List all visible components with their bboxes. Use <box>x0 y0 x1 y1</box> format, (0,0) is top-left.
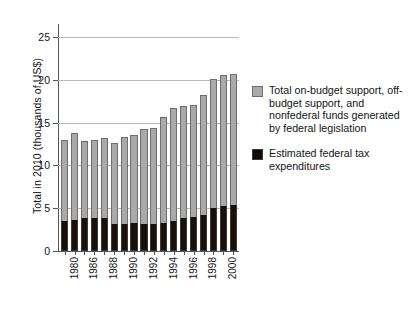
legend-label: Total on-budget support, off-budget supp… <box>269 84 412 134</box>
x-axis-tick-label: 1980 <box>70 257 80 279</box>
chart-legend: Total on-budget support, off-budget supp… <box>252 84 412 186</box>
x-axis-tick-label: 1986 <box>89 257 99 279</box>
bar-column[interactable]: 1980 <box>71 24 78 251</box>
legend-item[interactable]: Estimated federal tax expenditures <box>252 147 412 172</box>
x-axis-tick <box>223 251 224 255</box>
bar-segment-total-support[interactable] <box>150 128 157 224</box>
x-axis-tick <box>94 251 95 255</box>
bar-segment-total-support[interactable] <box>200 95 207 215</box>
x-axis-tick <box>134 251 135 255</box>
bar-segment-total-support[interactable] <box>180 106 187 218</box>
bar-segment-total-support[interactable] <box>61 140 68 221</box>
x-axis-tick <box>164 251 165 255</box>
bar-segment-tax-expenditures[interactable] <box>140 224 147 251</box>
bar-segment-total-support[interactable] <box>71 133 78 220</box>
bar-segment-total-support[interactable] <box>160 117 167 223</box>
bar-column[interactable] <box>81 24 88 251</box>
bar-column[interactable]: 2000 <box>230 24 237 251</box>
y-axis-tick-label: 15 <box>38 117 50 128</box>
bar-group: 198019861988199019921994199619982000 <box>59 24 239 251</box>
black-swatch-icon <box>252 149 263 160</box>
bar-column[interactable] <box>101 24 108 251</box>
x-axis-tick <box>124 251 125 255</box>
bar-segment-total-support[interactable] <box>111 143 118 224</box>
x-axis-tick <box>75 251 76 255</box>
y-axis-tick-label: 0 <box>44 246 50 257</box>
bar-column[interactable]: 1996 <box>190 24 197 251</box>
x-axis-tick-label: 1992 <box>149 257 159 279</box>
y-axis-tick-label: 25 <box>38 32 50 43</box>
figure-caption <box>0 305 415 319</box>
bar-column[interactable]: 1998 <box>210 24 217 251</box>
bar-segment-tax-expenditures[interactable] <box>210 208 217 251</box>
bar-column[interactable]: 1988 <box>111 24 118 251</box>
x-axis-tick <box>84 251 85 255</box>
x-axis-tick-label: 1990 <box>129 257 139 279</box>
y-axis-tick <box>53 123 58 124</box>
bar-segment-tax-expenditures[interactable] <box>160 223 167 251</box>
x-axis-tick-label: 1988 <box>109 257 119 279</box>
y-axis-title: Total in 2010 (thousands of US$) <box>31 21 43 251</box>
legend-item[interactable]: Total on-budget support, off-budget supp… <box>252 84 412 134</box>
plot-area: 0510152025 19801986198819901992199419961… <box>58 24 239 252</box>
bar-column[interactable] <box>220 24 227 251</box>
bar-segment-tax-expenditures[interactable] <box>71 220 78 251</box>
bar-column[interactable] <box>200 24 207 251</box>
x-axis-tick <box>184 251 185 255</box>
y-axis-tick-label: 20 <box>38 74 50 85</box>
x-axis-tick <box>154 251 155 255</box>
bar-column[interactable]: 1992 <box>150 24 157 251</box>
bar-column[interactable]: 1986 <box>91 24 98 251</box>
bar-segment-tax-expenditures[interactable] <box>130 223 137 251</box>
bar-segment-tax-expenditures[interactable] <box>61 221 68 251</box>
grey-swatch-icon <box>252 86 263 97</box>
bar-segment-total-support[interactable] <box>170 108 177 221</box>
y-axis-tick-label: 10 <box>38 160 50 171</box>
bar-segment-tax-expenditures[interactable] <box>180 218 187 251</box>
chart-figure: Total in 2010 (thousands of US$) 0510152… <box>0 0 415 319</box>
bar-segment-total-support[interactable] <box>101 138 108 218</box>
bar-column[interactable] <box>160 24 167 251</box>
x-axis-tick-label: 1998 <box>208 257 218 279</box>
y-axis-tick <box>53 165 58 166</box>
bar-column[interactable] <box>180 24 187 251</box>
bar-segment-tax-expenditures[interactable] <box>150 224 157 251</box>
x-axis-tick <box>104 251 105 255</box>
bar-column[interactable] <box>121 24 128 251</box>
bar-segment-tax-expenditures[interactable] <box>111 224 118 251</box>
bar-segment-total-support[interactable] <box>140 129 147 223</box>
bar-segment-tax-expenditures[interactable] <box>81 218 88 251</box>
y-axis-tick-label: 5 <box>44 203 50 214</box>
bar-segment-tax-expenditures[interactable] <box>200 215 207 251</box>
y-axis-tick <box>53 80 58 81</box>
bar-segment-tax-expenditures[interactable] <box>230 205 237 251</box>
legend-label: Estimated federal tax expenditures <box>269 147 412 172</box>
x-axis-tick <box>194 251 195 255</box>
bar-segment-tax-expenditures[interactable] <box>170 221 177 251</box>
bar-segment-total-support[interactable] <box>230 74 237 205</box>
bar-segment-tax-expenditures[interactable] <box>91 218 98 251</box>
x-axis-tick-label: 1996 <box>189 257 199 279</box>
bar-segment-total-support[interactable] <box>130 135 137 223</box>
x-axis-tick <box>114 251 115 255</box>
bar-segment-tax-expenditures[interactable] <box>121 224 128 251</box>
x-axis-tick <box>144 251 145 255</box>
y-axis-tick <box>53 251 58 252</box>
bar-segment-total-support[interactable] <box>190 105 197 217</box>
x-axis-tick-label: 1994 <box>169 257 179 279</box>
bar-segment-total-support[interactable] <box>91 140 98 218</box>
bar-segment-tax-expenditures[interactable] <box>101 218 108 251</box>
bar-segment-total-support[interactable] <box>210 79 217 208</box>
x-axis-tick <box>65 251 66 255</box>
bar-segment-tax-expenditures[interactable] <box>190 217 197 251</box>
bar-column[interactable] <box>61 24 68 251</box>
bar-column[interactable]: 1990 <box>130 24 137 251</box>
bar-segment-total-support[interactable] <box>81 141 88 219</box>
x-axis-tick <box>213 251 214 255</box>
bar-segment-total-support[interactable] <box>121 137 128 224</box>
bar-column[interactable] <box>140 24 147 251</box>
bar-segment-total-support[interactable] <box>220 75 227 206</box>
bar-segment-tax-expenditures[interactable] <box>220 206 227 251</box>
x-axis-tick <box>174 251 175 255</box>
bar-column[interactable]: 1994 <box>170 24 177 251</box>
